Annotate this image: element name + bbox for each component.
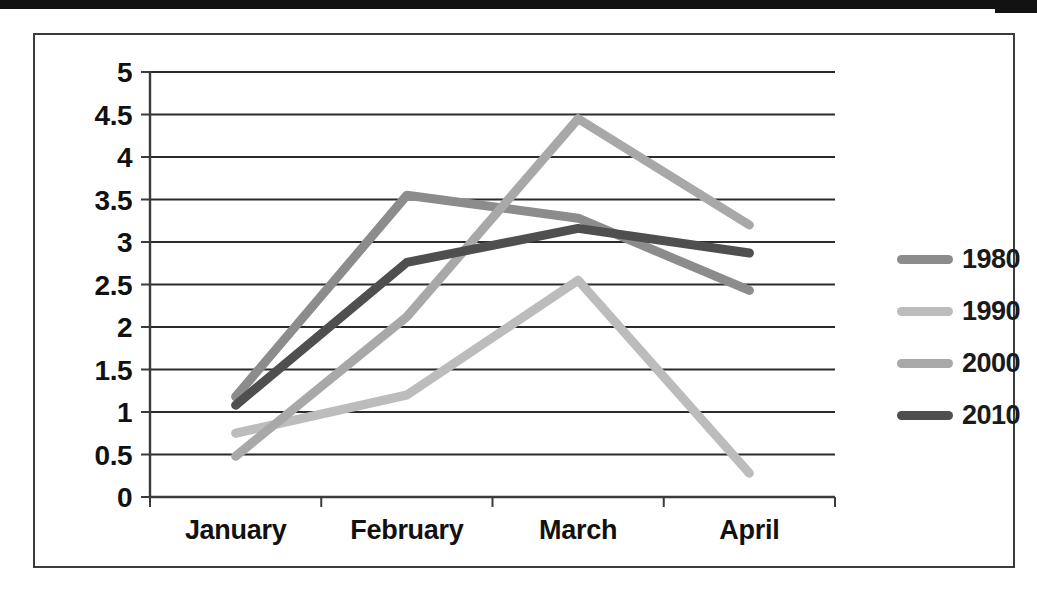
legend-item-2010[interactable]: 2010	[897, 389, 1037, 441]
chart-figure-frame: 54.543.532.521.510.50 JanuaryFebruaryMar…	[33, 33, 1015, 568]
scan-artifact-top-bar	[0, 0, 1037, 9]
y-axis-tick-labels: 54.543.532.521.510.50	[95, 57, 133, 513]
x-axis-tick-label: January	[185, 515, 287, 545]
y-axis-tick-label: 2.5	[95, 270, 132, 301]
legend-swatch-icon	[897, 411, 953, 420]
series-line-2000	[236, 119, 750, 456]
legend-swatch-icon	[897, 307, 953, 316]
legend-item-2000[interactable]: 2000	[897, 337, 1037, 389]
y-axis-tick-label: 3.5	[95, 185, 132, 216]
x-axis-tick-label: February	[350, 515, 463, 545]
y-axis-tick-label: 1	[117, 397, 132, 428]
legend-item-label: 1980	[962, 246, 1020, 273]
y-axis-tick-label: 1.5	[95, 355, 132, 386]
y-axis-tick-label: 5	[117, 57, 132, 88]
chart-page: 54.543.532.521.510.50 JanuaryFebruaryMar…	[0, 0, 1037, 594]
y-axis-tick-label: 0.5	[95, 440, 132, 471]
x-axis-tick-label: March	[539, 515, 617, 545]
chart-legend: 1980199020002010	[897, 233, 1037, 441]
y-axis-tick-label: 4	[117, 142, 133, 173]
legend-item-1980[interactable]: 1980	[897, 233, 1037, 285]
legend-item-label: 2000	[962, 350, 1020, 377]
data-series-lines	[236, 119, 750, 473]
y-axis-tick-label: 0	[117, 482, 132, 513]
x-axis-tick-label: April	[719, 515, 779, 545]
legend-item-label: 1990	[962, 298, 1020, 325]
y-axis-tick-label: 3	[117, 227, 132, 258]
y-axis-ticks	[141, 72, 150, 497]
y-axis-tick-label: 4.5	[95, 100, 132, 131]
line-chart: 54.543.532.521.510.50 JanuaryFebruaryMar…	[35, 35, 1013, 566]
legend-item-label: 2010	[962, 402, 1020, 429]
legend-item-1990[interactable]: 1990	[897, 285, 1037, 337]
series-line-1980	[236, 195, 750, 396]
legend-swatch-icon	[897, 255, 953, 264]
x-axis-ticks	[150, 497, 835, 507]
legend-swatch-icon	[897, 359, 953, 368]
scan-artifact-corner-bar	[995, 0, 1037, 13]
x-axis-tick-labels: JanuaryFebruaryMarchApril	[185, 515, 779, 545]
y-axis-tick-label: 2	[117, 312, 132, 343]
